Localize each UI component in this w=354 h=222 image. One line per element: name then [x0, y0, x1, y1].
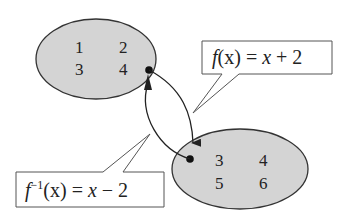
domain-value: 1 — [75, 38, 84, 57]
function-callout: f(x) = x + 2 — [193, 41, 332, 113]
domain-set: 1 2 3 4 — [36, 19, 156, 99]
domain-value: 2 — [119, 38, 128, 57]
range-value: 4 — [259, 151, 268, 170]
function-label: f(x) = x + 2 — [212, 46, 302, 69]
range-value: 3 — [215, 151, 224, 170]
inverse-callout: f−1(x) = x − 2 — [16, 134, 164, 207]
function-inverse-diagram: 1 2 3 4 3 4 5 6 f(x) = x + 2 f−1(x) = x … — [0, 0, 354, 222]
domain-value: 4 — [119, 60, 128, 79]
domain-ellipse — [36, 19, 156, 99]
range-value: 6 — [259, 174, 268, 193]
domain-value: 3 — [75, 60, 84, 79]
range-value: 5 — [215, 174, 224, 193]
